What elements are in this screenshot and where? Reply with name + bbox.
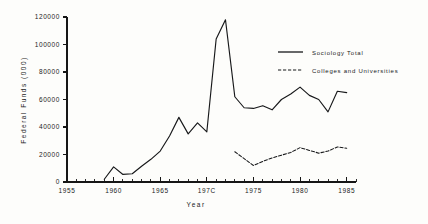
y-tick-label: 60000	[39, 96, 60, 103]
x-axis-ticks	[67, 177, 347, 182]
x-tick-label: 1955	[59, 187, 76, 194]
y-tick-label: 0	[56, 178, 60, 185]
x-tick-label: 1975	[245, 187, 262, 194]
chart-legend: Sociology Total Colleges and Universitie…	[278, 50, 398, 74]
x-axis-tick-labels: 195519601965197C197519801985	[59, 187, 356, 194]
x-tick-label: 197C	[198, 187, 216, 194]
y-tick-label: 40000	[39, 123, 60, 130]
y-axis-title: Federal Funds (000)	[20, 56, 28, 143]
x-tick-label: 1980	[292, 187, 309, 194]
x-axis-group: 195519601965197C197519801985	[59, 177, 356, 194]
series-sociology-total	[104, 20, 346, 180]
x-axis-title: Year	[186, 201, 205, 208]
y-axis-group: 020000400006000080000100000120000	[35, 13, 67, 185]
y-tick-label: 20000	[39, 151, 60, 158]
chart-page: 020000400006000080000100000120000 195519…	[0, 0, 428, 224]
line-chart: 020000400006000080000100000120000 195519…	[0, 0, 428, 224]
y-tick-label: 120000	[35, 13, 60, 20]
y-tick-label: 80000	[39, 68, 60, 75]
series-paths	[104, 20, 346, 180]
legend-label-colleges-universities: Colleges and Universities	[312, 68, 398, 74]
y-axis-tick-labels: 020000400006000080000100000120000	[35, 13, 60, 185]
x-tick-label: 1985	[338, 187, 355, 194]
y-tick-label: 100000	[35, 41, 60, 48]
x-tick-label: 1965	[152, 187, 169, 194]
series-colleges-and-universities	[235, 147, 347, 166]
legend-label-sociology-total: Sociology Total	[312, 50, 364, 56]
x-tick-label: 1960	[105, 187, 122, 194]
y-axis-ticks	[63, 17, 67, 182]
